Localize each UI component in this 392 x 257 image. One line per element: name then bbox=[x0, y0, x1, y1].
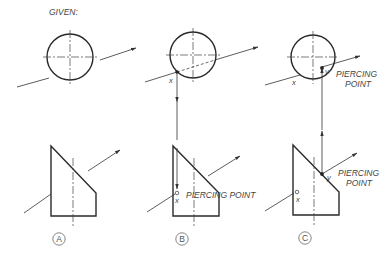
point-x-label: x bbox=[174, 196, 179, 205]
piercing-annotation-line1: PIERCING bbox=[338, 168, 379, 178]
line-exit-arrow bbox=[208, 156, 240, 176]
prism-outline bbox=[51, 146, 96, 216]
view-b-top-circle bbox=[166, 28, 220, 83]
line-exit-arrow bbox=[88, 150, 120, 171]
point-x-marker bbox=[175, 191, 179, 195]
view-c: x y PIERCING POINT x y PIERCING POINT C bbox=[265, 31, 379, 244]
given-heading: GIVEN: bbox=[49, 7, 78, 17]
point-x-marker bbox=[295, 190, 299, 194]
view-c-front-shape bbox=[293, 145, 339, 226]
line-exit-arrow bbox=[215, 47, 258, 60]
view-a-top-circle bbox=[43, 30, 97, 85]
view-c-top-circle bbox=[287, 31, 339, 84]
view-label-c: C bbox=[302, 233, 308, 243]
point-x-label: x bbox=[295, 195, 300, 204]
piercing-point-diagram: GIVEN: A x bbox=[0, 0, 392, 257]
view-label-a: A bbox=[56, 234, 62, 244]
line-entry-segment bbox=[17, 78, 49, 87]
line-hidden-segment bbox=[177, 60, 215, 72]
line-exit-arrow bbox=[100, 48, 136, 60]
view-a: A bbox=[17, 30, 136, 245]
prism-outline bbox=[173, 146, 219, 216]
view-b-front-shape bbox=[173, 146, 219, 226]
point-y-label: y bbox=[326, 173, 332, 182]
point-x-label: x bbox=[168, 76, 173, 85]
piercing-annotation-line2: POINT bbox=[345, 79, 372, 89]
view-b: x x PIERCING POINT B bbox=[145, 28, 258, 245]
view-a-front-shape bbox=[51, 146, 96, 226]
view-label-b: B bbox=[179, 234, 185, 244]
line-entry-segment bbox=[147, 194, 175, 212]
piercing-annotation-line1: PIERCING bbox=[336, 69, 377, 79]
point-y-marker bbox=[320, 172, 324, 176]
piercing-point-annotation: PIERCING POINT bbox=[186, 190, 256, 200]
piercing-annotation-line2: POINT bbox=[346, 178, 373, 188]
point-x-label: x bbox=[291, 78, 296, 87]
prism-outline bbox=[293, 145, 339, 215]
line-entry-segment bbox=[24, 194, 51, 213]
line-entry-segment bbox=[265, 193, 294, 211]
line-exit-arrow bbox=[322, 56, 360, 67]
